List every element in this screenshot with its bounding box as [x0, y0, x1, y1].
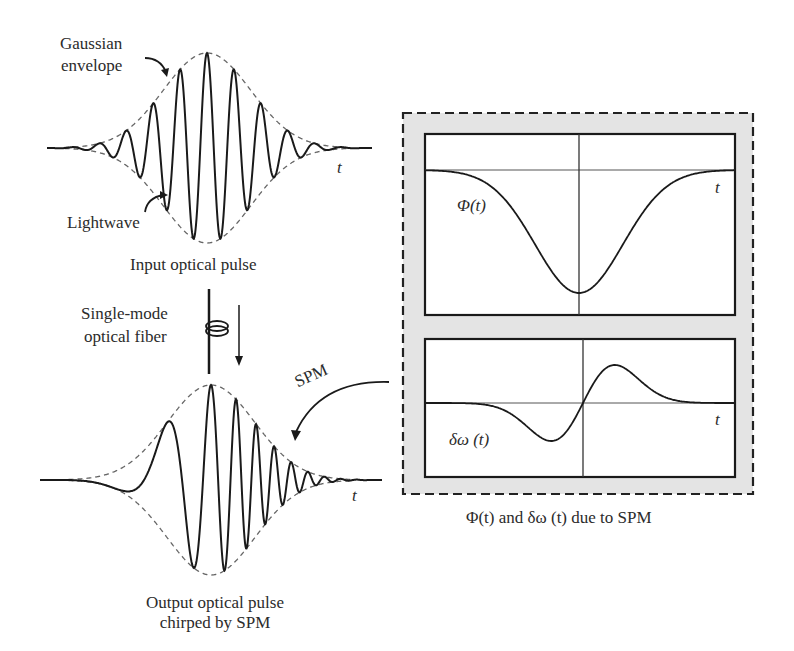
domega-curve-label: δω (t): [449, 430, 489, 450]
phi-time-axis-label: t: [715, 178, 720, 198]
input-time-axis-label: t: [337, 158, 342, 178]
domega-time-axis-label: t: [715, 410, 720, 430]
spm-diagram: [0, 0, 794, 651]
phi-curve-label: Φ(t): [457, 196, 486, 216]
input-pulse-caption: Input optical pulse: [130, 255, 257, 275]
annotation-arrows: [145, 58, 389, 441]
output-time-axis-label: t: [352, 486, 357, 506]
output-chirped-pulse-waveform: [40, 385, 382, 575]
panel-caption: Φ(t) and δω (t) due to SPM: [466, 508, 652, 528]
optical-fiber-icon: [206, 289, 243, 374]
gaussian-envelope-label: Gaussian: [60, 34, 122, 54]
output-pulse-caption: Output optical pulse chirped by SPM: [125, 593, 305, 634]
fiber-label-line2: optical fiber: [84, 327, 167, 347]
fiber-label-line1: Single-mode: [81, 304, 168, 324]
gaussian-envelope-label-2: envelope: [61, 56, 122, 76]
lightwave-label: Lightwave: [67, 213, 140, 233]
